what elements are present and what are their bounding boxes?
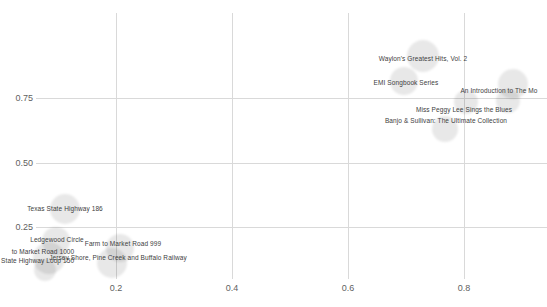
data-point-label: Ledgewood Circle [30,236,84,244]
scatter-chart: Waylon's Greatest Hits, Vol. 2EMI Songbo… [0,0,547,307]
data-point-label: Miss Peggy Lee Sings the Blues [416,106,512,114]
x-axis-tick-label: 0.4 [226,283,239,293]
x-axis-tick-label: 0.6 [342,283,355,293]
data-point-label: Texas State Highway 186 [27,205,103,213]
data-point-label: An Introduction to The Mo [460,87,537,95]
data-point-label: EMI Songbook Series [374,79,439,87]
data-point-label: Banjo & Sullivan: The Ultimate Collectio… [385,117,507,125]
y-axis-tick-label: 0.50 [3,158,33,168]
x-axis-tick-label: 0.8 [458,283,471,293]
data-point-label: Farm to Market Road 999 [85,240,161,248]
x-gridline [464,13,465,279]
x-gridline [232,13,233,279]
y-gridline [36,227,547,228]
x-axis-tick-label: 0.2 [110,283,123,293]
y-axis-tick-label: 0.25 [3,222,33,232]
data-point-bubble[interactable] [97,248,127,278]
x-gridline [348,13,349,279]
y-gridline [36,163,547,164]
data-point-label: Waylon's Greatest Hits, Vol. 2 [379,55,468,63]
data-point-label: s State Highway Loop 150 [0,257,74,265]
y-axis-tick-label: 0.75 [3,93,33,103]
